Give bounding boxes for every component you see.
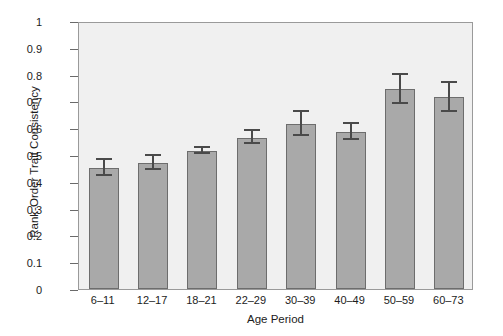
error-bar-line: [448, 83, 450, 112]
y-axis-tick-label: 1: [36, 16, 42, 28]
error-bar-cap-upper: [343, 122, 359, 124]
bar-chart-figure: 00.10.20.30.40.50.60.70.80.91 Rank-Order…: [0, 0, 503, 336]
error-bar-cap-upper: [293, 110, 309, 112]
y-axis-tick-mark: [70, 102, 78, 103]
bar: [434, 97, 464, 289]
y-axis-tick-mark: [70, 183, 78, 184]
error-bar-cap-lower: [441, 110, 457, 112]
error-bar-cap-upper: [96, 158, 112, 160]
y-axis-tick-label: 0: [36, 284, 42, 296]
bar-group: [434, 21, 464, 289]
y-axis-tick-mark: [70, 22, 78, 23]
y-axis-tick-mark: [70, 76, 78, 77]
error-bar-cap-lower: [392, 102, 408, 104]
error-bar-cap-lower: [145, 168, 161, 170]
bar-group: [89, 21, 119, 289]
y-axis-title: Rank-Order Trait Consistency: [28, 42, 40, 282]
y-axis-tick-mark: [70, 236, 78, 237]
x-axis-tick-label: 60–73: [418, 294, 478, 306]
bar-group: [138, 21, 168, 289]
error-bar-cap-lower: [343, 138, 359, 140]
y-axis-tick-mark: [70, 129, 78, 130]
bar: [286, 124, 316, 289]
plot-area: [78, 22, 473, 290]
y-axis-tick-mark: [70, 156, 78, 157]
error-bar-line: [300, 112, 302, 136]
bar-group: [385, 21, 415, 289]
bars-layer: [79, 23, 472, 289]
error-bar-cap-lower: [244, 142, 260, 144]
y-axis-tick-mark: [70, 290, 78, 291]
error-bar-cap-upper: [145, 154, 161, 156]
bar: [138, 163, 168, 289]
bar: [385, 89, 415, 289]
error-bar-cap-upper: [194, 146, 210, 148]
error-bar-cap-lower: [194, 152, 210, 154]
bar-group: [286, 21, 316, 289]
error-bar-cap-upper: [441, 81, 457, 83]
bar: [336, 132, 366, 289]
error-bar-cap-lower: [293, 134, 309, 136]
error-bar-line: [399, 75, 401, 104]
y-axis-tick-mark: [70, 210, 78, 211]
error-bar-cap-upper: [392, 73, 408, 75]
error-bar-cap-lower: [96, 174, 112, 176]
bar: [237, 138, 267, 289]
y-axis-tick-mark: [70, 263, 78, 264]
x-axis: 6–1112–1718–2122–2930–3940–4950–5960–73: [78, 294, 473, 312]
bar: [187, 151, 217, 289]
error-bar-cap-upper: [244, 129, 260, 131]
x-axis-title: Age Period: [78, 313, 473, 325]
bar-group: [237, 21, 267, 289]
y-axis-tick-mark: [70, 49, 78, 50]
bar: [89, 168, 119, 289]
bar-group: [187, 21, 217, 289]
bar-group: [336, 21, 366, 289]
